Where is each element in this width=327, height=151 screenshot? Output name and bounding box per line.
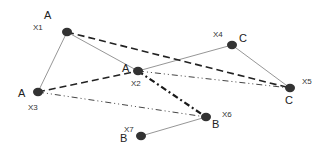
node-dot [62,28,72,36]
edge-x1-x5 [67,32,290,88]
node-label: C [239,32,247,44]
node-x2: AX2 [122,62,143,88]
node-x5: CX5 [285,77,312,106]
node-dot [136,132,146,140]
edge-x1-x3 [38,32,67,92]
edge-x3-x6 [38,92,206,117]
node-x1: AX1 [33,9,72,36]
edge-x2-x4 [138,45,232,71]
node-dot [33,88,43,96]
node-dot [201,113,211,121]
node-label: C [285,94,293,106]
node-label: A [18,87,26,99]
node-x7: BX7 [120,125,146,144]
node-id: X5 [302,77,312,86]
nodes-layer: AX1AX2AX3CX4CX5BX6BX7 [18,9,312,144]
node-dot [133,67,143,75]
node-id: X1 [33,23,43,32]
edge-x6-x7 [141,117,206,136]
node-dot [227,41,237,49]
edge-x2-x5 [138,71,290,88]
node-id: X7 [124,125,134,134]
node-id: X6 [222,110,232,119]
node-x3: AX3 [18,87,43,112]
node-label: A [122,62,130,74]
node-id: X4 [213,30,223,39]
node-label: A [44,9,52,21]
edge-x3-x2 [38,71,138,92]
edges-layer [38,32,290,136]
node-id: X2 [131,79,141,88]
node-x6: BX6 [201,110,232,130]
edge-x2-x6 [138,71,206,117]
node-label: B [212,118,219,130]
graph-diagram: AX1AX2AX3CX4CX5BX6BX7 [0,0,327,151]
node-dot [285,84,295,92]
node-x4: CX4 [213,30,247,49]
node-id: X3 [28,103,38,112]
edge-x4-x5 [232,45,290,88]
